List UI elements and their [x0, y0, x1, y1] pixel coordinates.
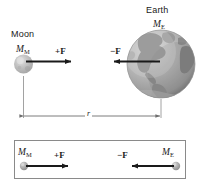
moon-mass-symbol: M: [16, 44, 24, 54]
moon-sphere-top: [14, 55, 33, 74]
earth-mass-subscript-schematic: E: [170, 151, 174, 158]
earth-title-label: Earth: [146, 6, 169, 15]
earth-mass-label: ME: [153, 20, 165, 31]
force-label-earth-negative: −F: [110, 47, 121, 56]
earth-continents: [124, 26, 208, 114]
earth-mass-symbol: M: [153, 19, 161, 29]
earth-mass-symbol-schematic: M: [162, 147, 170, 157]
force-label-earth-negative-schematic: −F: [117, 151, 128, 160]
separation-label: r: [85, 110, 92, 118]
earth-mass-label-schematic: ME: [162, 148, 174, 159]
point-mass-panel-border: [15, 141, 186, 179]
moon-title-label: Moon: [11, 30, 34, 39]
force-label-moon-positive: +F: [55, 47, 66, 56]
gravitation-figure: Moon MM +F Earth ME −F r MM +F −F ME: [0, 0, 209, 185]
earth-globe-top: [124, 26, 208, 114]
moon-mass-symbol-schematic: M: [18, 147, 26, 157]
earth-mass-subscript: E: [161, 23, 165, 30]
moon-mass-label-schematic: MM: [18, 148, 32, 159]
moon-mass-subscript-schematic: M: [26, 151, 32, 158]
moon-mass-label: MM: [16, 45, 30, 56]
force-label-moon-positive-schematic: +F: [54, 151, 65, 160]
moon-mass-subscript: M: [24, 48, 30, 55]
